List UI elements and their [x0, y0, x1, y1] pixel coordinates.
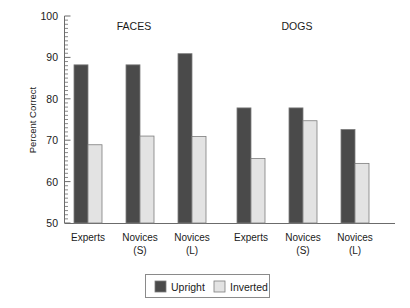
legend-swatch-upright [155, 281, 166, 292]
bar-inverted-faces-1 [140, 136, 154, 223]
bar-inverted-faces-0 [88, 145, 102, 223]
bar-inverted-faces-2 [192, 136, 206, 223]
cat-label-faces-1-line1: Novices [122, 232, 158, 243]
bar-upright-dogs-2 [341, 129, 355, 223]
bar-inverted-dogs-1 [303, 121, 317, 223]
bar-upright-dogs-1 [289, 108, 303, 223]
panel-title-dogs: DOGS [282, 20, 313, 32]
bars-layer [74, 54, 369, 223]
bar-upright-faces-0 [74, 65, 88, 223]
cat-label-faces-2-line1: Novices [174, 232, 210, 243]
bar-upright-faces-2 [178, 54, 192, 223]
cat-label-dogs-2-line2: (L) [349, 245, 361, 256]
y-tick-label-100: 100 [40, 10, 58, 22]
y-tick-label-50: 50 [46, 217, 58, 229]
y-tick-label-60: 60 [46, 176, 58, 188]
legend-swatch-inverted [214, 281, 225, 292]
plot-area: 100 90 80 70 60 50 Percent Correct FACES… [0, 0, 410, 308]
cat-label-faces-0-line1: Experts [71, 232, 105, 243]
y-tick-label-70: 70 [46, 134, 58, 146]
cat-label-dogs-0-line1: Experts [234, 232, 268, 243]
cat-label-dogs-1-line1: Novices [285, 232, 321, 243]
y-tick-label-90: 90 [46, 51, 58, 63]
legend-label-inverted: Inverted [230, 281, 268, 293]
cat-label-dogs-1-line2: (S) [296, 245, 309, 256]
panel-title-faces: FACES [117, 20, 151, 32]
chart-figure: 100 90 80 70 60 50 Percent Correct FACES… [0, 0, 410, 308]
bar-inverted-dogs-0 [251, 158, 265, 223]
legend-label-upright: Upright [171, 281, 205, 293]
cat-label-faces-1-line2: (S) [133, 245, 146, 256]
bar-upright-dogs-0 [237, 108, 251, 223]
legend: Upright Inverted [146, 275, 270, 298]
y-axis-title: Percent Correct [27, 86, 38, 153]
cat-label-faces-2-line2: (L) [186, 245, 198, 256]
bar-upright-faces-1 [126, 65, 140, 223]
bar-chart-svg: 100 90 80 70 60 50 Percent Correct FACES… [0, 0, 410, 308]
y-tick-label-80: 80 [46, 93, 58, 105]
y-axis-minor-ticks [65, 20, 69, 219]
cat-label-dogs-2-line1: Novices [337, 232, 373, 243]
bar-inverted-dogs-2 [355, 163, 369, 223]
